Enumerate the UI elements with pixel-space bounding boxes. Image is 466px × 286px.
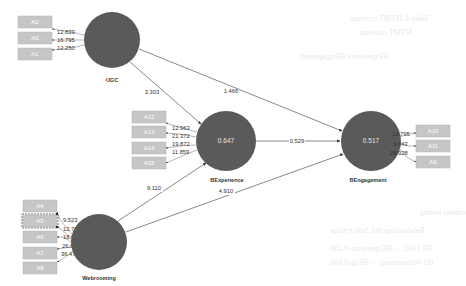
outer-weight: 12.963 [172,125,190,131]
svg-text:A13: A13 [144,129,155,135]
svg-text:A2: A2 [31,19,39,25]
indicator-a15[interactable]: A15 [132,157,166,169]
outer-weight: 16.795 [57,37,75,43]
outer-weight: 12.795 [392,131,410,137]
svg-text:A8: A8 [36,265,44,271]
r-squared-value: 0.647 [218,137,235,144]
path-bexperience-to-bengagement[interactable]: 0.529 [256,137,340,145]
svg-text:A12: A12 [144,114,155,120]
svg-text:A7: A7 [36,250,44,256]
indicator-a1[interactable]: A1 [18,48,52,60]
svg-text:A5: A5 [36,218,44,224]
indicator-a12[interactable]: A12 [132,111,166,123]
outer-weight: 9.523 [63,217,78,223]
svg-text:A4: A4 [36,203,44,209]
path-coefficient: 3.303 [145,89,160,95]
indicator-a6[interactable]: A6 [23,231,57,243]
svg-text:A9: A9 [429,159,437,165]
outer-weight: 28.928 [390,150,408,156]
svg-text:A1: A1 [31,51,39,57]
construct-label: Webrooming [82,275,116,281]
construct-label: BEngagement [350,177,387,183]
indicator-a13[interactable]: A13 [132,126,166,138]
path-coefficient: 4.910 [219,188,234,194]
outer-weight: 11.859 [172,149,189,155]
construct-ugc[interactable]: UGC [84,12,140,83]
indicator-a11[interactable]: A11 [416,140,450,152]
indicator-a7[interactable]: A7 [23,247,57,259]
indicator-a4[interactable]: A4 [23,200,57,212]
indicator-a14[interactable]: A14 [132,142,166,154]
indicator-a10[interactable]: A10 [416,125,450,137]
outer-weight: 12.839 [57,29,75,35]
path-coefficient: 0.529 [290,138,305,144]
path-coefficient: 1.466 [224,88,239,94]
outer-weight: 21.372 [172,133,190,139]
svg-text:A14: A14 [144,145,155,151]
construct-bengagement[interactable]: 0.517 BEngagement [341,111,401,183]
indicator-a3[interactable]: A3 [18,32,52,44]
construct-webrooming[interactable]: Webrooming [71,214,127,281]
indicators-bexperience: A12 A13 A14 A15 12.963 21.372 19.872 11.… [132,111,197,169]
svg-text:A3: A3 [31,35,39,41]
indicators-bengagement: A10 A11 A9 12.795 9.843 28.928 [390,125,450,168]
construct-bexperience[interactable]: 0.647 BExperience [196,111,256,183]
svg-text:A10: A10 [428,128,439,134]
svg-text:A6: A6 [36,234,44,240]
svg-text:A11: A11 [428,143,439,149]
indicator-a9[interactable]: A9 [416,156,450,168]
r-squared-value: 0.517 [363,137,380,144]
construct-label: BExperience [210,177,243,183]
indicator-a5[interactable]: A5 [22,213,58,228]
construct-label: UGC [106,77,118,83]
svg-text:A15: A15 [144,160,155,166]
indicator-a8[interactable]: A8 [23,262,57,274]
path-webrooming-to-bexperience[interactable]: 9.110 [118,163,206,221]
outer-weight: 19.872 [172,141,190,147]
sem-diagram: 3.303 1.466 0.529 9.110 4.910 A2 A3 A1 [0,0,466,286]
outer-weight: 9.843 [393,141,408,147]
indicator-a2[interactable]: A2 [18,16,52,28]
indicators-ugc: A2 A3 A1 12.839 16.795 12.250 [18,16,84,60]
path-coefficient: 9.110 [147,185,161,191]
outer-weight: 12.250 [57,45,75,51]
